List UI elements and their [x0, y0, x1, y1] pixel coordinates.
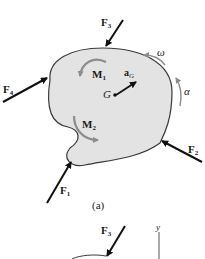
- angular-acceleration-arrow: [176, 78, 181, 106]
- figure-caption: (a): [92, 199, 105, 212]
- label-f3-b: F3: [101, 224, 112, 238]
- label-alpha: α: [184, 85, 190, 97]
- label-f4: F4: [3, 83, 14, 97]
- label-omega: ω: [157, 46, 165, 58]
- rigid-body-b-partial: [72, 255, 106, 259]
- label-f1: F1: [60, 184, 71, 198]
- label-g: G: [103, 88, 111, 100]
- label-f2: F2: [188, 143, 199, 157]
- label-f3: F3: [101, 16, 112, 30]
- rigid-body: [49, 48, 172, 166]
- label-y-axis: y: [155, 222, 160, 232]
- free-body-diagram: F3 F4 F2 F1 M1 M2 G aG ω α (a) F3 y: [0, 0, 205, 259]
